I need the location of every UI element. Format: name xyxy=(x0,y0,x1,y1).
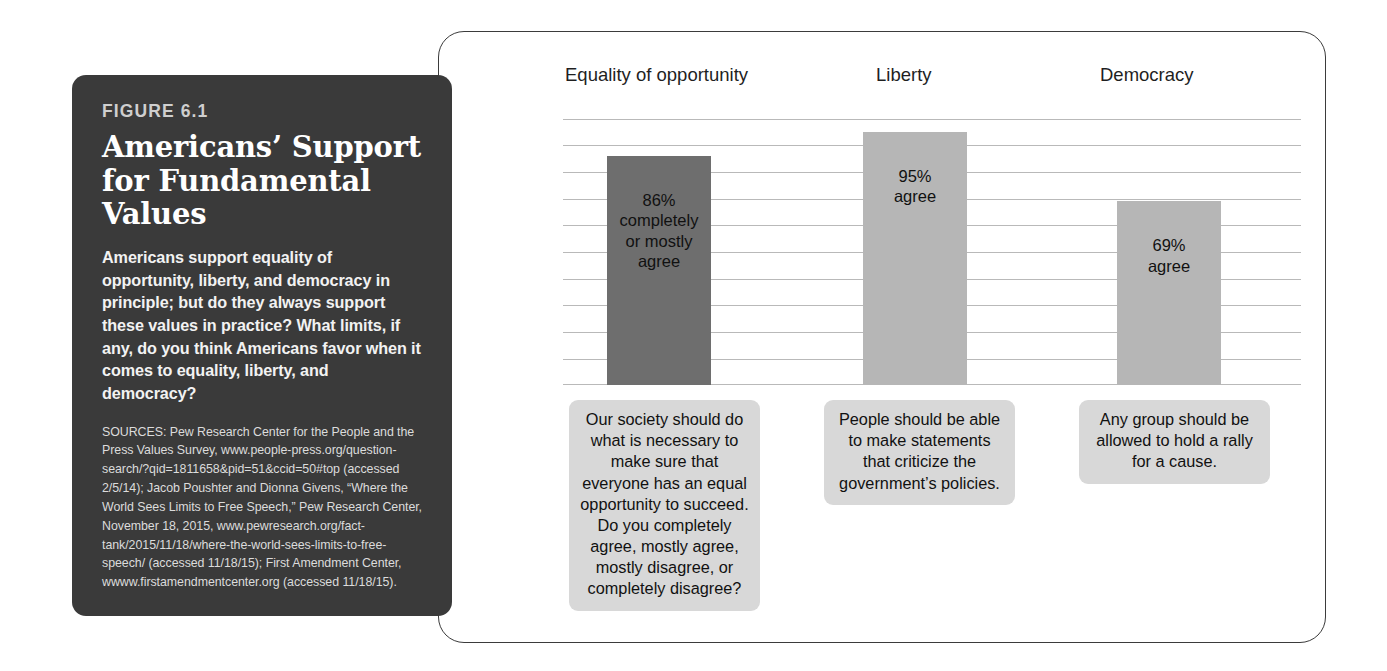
figure-caption-box: FIGURE 6.1 Americans’ Support for Fundam… xyxy=(72,75,452,616)
plot-area: 86% completely or mostly agree 95% agree… xyxy=(563,119,1301,385)
column-headers: Equality of opportunity Liberty Democrac… xyxy=(439,64,1325,92)
figure-number-label: FIGURE 6.1 xyxy=(102,101,424,122)
bar-qualifier-equality-line1: completely xyxy=(607,210,711,230)
bar-democracy: 69% agree xyxy=(1117,201,1221,385)
question-box-democracy: Any group should be allowed to hold a ra… xyxy=(1079,400,1270,484)
question-box-liberty: People should be able to make statements… xyxy=(824,400,1015,505)
chart-panel: Equality of opportunity Liberty Democrac… xyxy=(438,31,1326,643)
bar-qualifier-liberty: agree xyxy=(863,186,967,206)
figure-title: Americans’ Support for Fundamental Value… xyxy=(102,131,424,232)
bar-value-liberty: 95% xyxy=(863,166,967,186)
bar-qualifier-equality-line3: agree xyxy=(607,251,711,271)
bar-value-democracy: 69% xyxy=(1117,235,1221,255)
gridline xyxy=(563,119,1301,120)
bar-value-equality: 86% xyxy=(607,190,711,210)
bar-qualifier-equality-line2: or mostly xyxy=(607,231,711,251)
column-header-equality: Equality of opportunity xyxy=(565,64,748,86)
figure-sources: SOURCES: Pew Research Center for the Peo… xyxy=(102,423,424,593)
bar-liberty: 95% agree xyxy=(863,132,967,385)
question-box-equality: Our society should do what is necessary … xyxy=(569,400,760,611)
figure-description: Americans support equality of opportunit… xyxy=(102,246,424,405)
column-header-liberty: Liberty xyxy=(876,64,932,86)
bar-qualifier-democracy: agree xyxy=(1117,256,1221,276)
column-header-democracy: Democracy xyxy=(1100,64,1194,86)
bar-equality: 86% completely or mostly agree xyxy=(607,156,711,385)
